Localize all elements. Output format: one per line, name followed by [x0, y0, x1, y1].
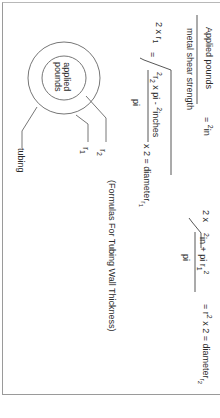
tubing-label: tubing	[16, 148, 26, 173]
formula2-equals: =	[148, 52, 158, 57]
formula3-lhs: 2 x	[201, 210, 211, 222]
inner-label-line2: pounds	[53, 62, 62, 92]
formula3-radicand: 2in + pi r12	[197, 233, 208, 274]
radicand-text: in + pi r	[198, 237, 208, 267]
inner-label-line1: applied	[62, 62, 71, 92]
sub-index: 1	[138, 204, 144, 207]
formula3-rhs: = r2 x 2 = diameterr2	[200, 304, 211, 384]
unit: in	[202, 129, 212, 136]
tubing-text: tubing	[16, 148, 26, 173]
r1-leader-line	[76, 115, 88, 142]
denominator-text: pi	[131, 99, 141, 106]
lhs-text: 2 x r	[154, 22, 164, 40]
superscript: 2	[203, 233, 210, 237]
denominator-text: metal shear strength	[185, 28, 195, 110]
rhs-text: x 2 = diameter	[201, 321, 211, 378]
tubing-leader-line	[22, 107, 37, 148]
subscript: 1	[152, 40, 159, 44]
r2-subscript: 2	[96, 152, 103, 156]
radicand-unit: inches	[151, 111, 161, 137]
formula1-denominator: metal shear strength	[185, 28, 195, 110]
formula3-denominator: pi	[181, 254, 191, 261]
rhs-eq: = r	[201, 304, 211, 315]
caption: (Formulas For Tubing Wall Thickness)	[107, 180, 117, 332]
radicand-mid: x pi -	[151, 85, 161, 105]
r2-label: r2	[97, 149, 108, 156]
superscript: 2	[207, 125, 214, 129]
equals: =	[148, 52, 158, 57]
superscript: 2	[203, 271, 210, 275]
formula2-radicand: 2r2 x pi - 2inches	[150, 72, 161, 137]
lhs-text: 2 x	[201, 210, 211, 222]
superscript: 2	[156, 72, 163, 76]
r1-label: r1	[80, 147, 91, 154]
rhs-subscript: r1	[140, 201, 147, 207]
superscript: 2	[206, 315, 213, 319]
r2-leader-line	[86, 96, 106, 142]
inner-label: appliedpounds	[53, 62, 71, 92]
formula2-lhs: 2 x r1	[153, 22, 164, 43]
caption-text: (Formulas For Tubing Wall Thickness)	[107, 180, 117, 332]
equals: =	[202, 117, 212, 122]
rhs-text: x 2 = diameter	[142, 144, 152, 201]
subscript: 1	[196, 267, 203, 271]
formula2-denominator: pi	[131, 99, 141, 106]
r1-subscript: 1	[79, 150, 86, 154]
denominator-text: pi	[181, 254, 191, 261]
subscript: 2	[149, 79, 156, 83]
rhs-subscript: r2	[199, 378, 206, 384]
superscript: 2	[156, 107, 163, 111]
sub-index: 2	[197, 381, 203, 384]
numerator-text: Applied pounds	[204, 27, 214, 89]
formula1-result: = 2in	[201, 117, 212, 136]
formula2-rhs: x 2 = diameterr1	[141, 144, 152, 207]
formula1-numerator: Applied pounds	[204, 27, 214, 89]
